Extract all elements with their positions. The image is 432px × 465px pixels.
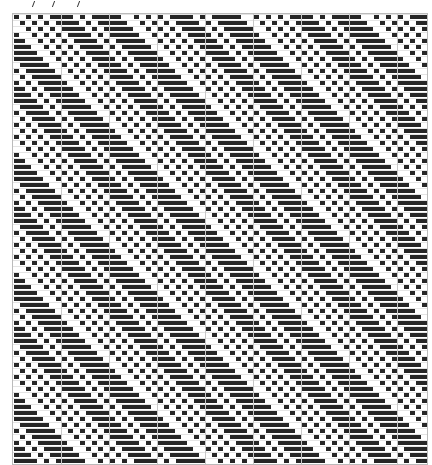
filled-cell-run (116, 225, 121, 229)
filled-cell-run (272, 315, 301, 319)
filled-cell-run (62, 279, 67, 283)
row-gridline (13, 368, 427, 369)
filled-cell-run (404, 405, 409, 409)
column-gridline (301, 14, 302, 464)
filled-cell-run (230, 393, 259, 397)
filled-cell-run (398, 243, 421, 247)
filled-cell-run (32, 357, 55, 361)
filled-cell-run (176, 153, 181, 157)
filled-cell-run (320, 201, 325, 205)
filled-cell-run (158, 147, 163, 151)
filled-cell-run (140, 225, 163, 229)
filled-cell-run (422, 117, 427, 121)
filled-cell-run (62, 225, 91, 229)
row-gridline (13, 14, 427, 15)
filled-cell-run (206, 195, 211, 199)
filled-cell-run (416, 261, 427, 265)
filled-cell-run (92, 213, 97, 217)
filled-cell-run (278, 453, 283, 457)
filled-cell-run (242, 177, 247, 181)
filled-cell-run (170, 333, 199, 337)
filled-cell-run (260, 435, 265, 439)
row-gridline (13, 266, 427, 267)
filled-cell-run (20, 423, 49, 427)
filled-cell-run (50, 279, 55, 283)
filled-cell-run (86, 171, 109, 175)
filled-cell-run (92, 387, 97, 391)
filled-cell-run (26, 27, 31, 31)
filled-cell-run (134, 135, 139, 139)
filled-cell-run (404, 129, 427, 133)
filled-cell-run (362, 207, 385, 211)
filled-cell-run (206, 369, 235, 373)
filled-cell-run (356, 117, 361, 121)
filled-cell-run (128, 129, 133, 133)
filled-cell-run (176, 45, 181, 49)
filled-cell-run (116, 441, 139, 445)
filled-cell-run (320, 123, 349, 127)
filled-cell-run (230, 75, 253, 79)
filled-cell-run (410, 291, 415, 295)
filled-cell-run (128, 333, 151, 337)
filled-cell-run (326, 303, 331, 307)
filled-cell-run (134, 189, 139, 193)
filled-cell-run (14, 123, 19, 127)
filled-cell-run (68, 231, 97, 235)
filled-cell-run (290, 453, 319, 457)
filled-cell-run (92, 255, 121, 259)
filled-cell-run (416, 297, 421, 301)
filled-cell-run (350, 207, 355, 211)
filled-cell-run (230, 87, 235, 91)
row-gridline (13, 350, 427, 351)
filled-cell-run (86, 207, 91, 211)
filled-cell-run (134, 363, 139, 367)
filled-cell-run (284, 381, 289, 385)
filled-cell-run (218, 381, 247, 385)
filled-cell-run (278, 39, 283, 43)
filled-cell-run (74, 39, 97, 43)
filled-cell-run (110, 165, 115, 169)
filled-cell-run (332, 417, 355, 421)
filled-cell-run (44, 45, 49, 49)
filled-cell-run (86, 447, 91, 451)
filled-cell-run (386, 27, 391, 31)
filled-cell-run (422, 171, 427, 175)
filled-cell-run (422, 39, 427, 43)
filled-cell-run (362, 231, 367, 235)
row-gridline (13, 416, 427, 417)
filled-cell-run (374, 309, 379, 313)
filled-cell-run (206, 129, 235, 133)
filled-cell-run (272, 87, 277, 91)
filled-cell-run (158, 201, 187, 205)
filled-cell-run (254, 15, 259, 19)
filled-cell-run (176, 57, 181, 61)
filled-cell-run (320, 375, 325, 379)
filled-cell-run (170, 159, 175, 163)
filled-cell-run (326, 129, 355, 133)
filled-cell-run (362, 45, 391, 49)
filled-cell-run (206, 207, 211, 211)
filled-cell-run (26, 363, 31, 367)
filled-cell-run (272, 273, 277, 277)
filled-cell-run (260, 261, 265, 265)
filled-cell-run (290, 39, 295, 43)
row-gridline (13, 152, 427, 153)
filled-cell-run (374, 123, 379, 127)
filled-cell-run (362, 459, 367, 463)
filled-cell-run (374, 177, 403, 181)
filled-cell-run (212, 375, 241, 379)
column-gridline (205, 14, 206, 464)
filled-cell-run (14, 87, 25, 91)
filled-cell-run (362, 351, 367, 355)
filled-cell-run (380, 345, 403, 349)
filled-cell-run (170, 213, 199, 217)
filled-cell-run (368, 117, 373, 121)
filled-cell-run (290, 93, 319, 97)
filled-cell-run (158, 123, 181, 127)
filled-cell-run (374, 111, 379, 115)
filled-cell-run (368, 105, 373, 109)
filled-cell-run (62, 267, 85, 271)
filled-cell-run (284, 165, 289, 169)
filled-cell-run (224, 201, 229, 205)
filled-cell-run (14, 417, 43, 421)
